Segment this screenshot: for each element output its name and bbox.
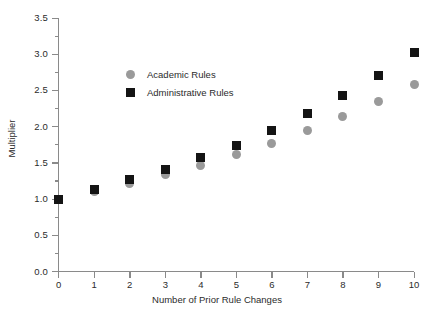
x-tick-label: 6 [260, 280, 284, 290]
data-point [196, 153, 205, 162]
x-tick-label: 0 [47, 280, 71, 290]
x-tick-label: 8 [331, 280, 355, 290]
legend-square-icon [126, 88, 135, 97]
data-point [303, 109, 312, 118]
data-point [410, 80, 419, 89]
data-point [410, 48, 419, 57]
data-point [303, 126, 312, 135]
y-tick-mark [52, 54, 59, 55]
y-tick-label: 0.0 [20, 267, 48, 277]
y-tick-mark [52, 90, 59, 91]
y-tick-mark [52, 126, 59, 127]
data-point [267, 126, 276, 135]
x-axis-title: Number of Prior Rule Changes [0, 294, 434, 305]
y-minor-tick-mark [55, 253, 59, 254]
x-tick-mark [271, 272, 272, 278]
legend-label: Academic Rules [147, 69, 216, 80]
x-tick-label: 2 [118, 280, 142, 290]
scatter-chart: 0.00.51.01.52.02.53.03.5 012345678910 Ac… [0, 0, 434, 318]
plot-area: 0.00.51.01.52.02.53.03.5 012345678910 Ac… [0, 0, 434, 318]
x-tick-mark [129, 272, 130, 278]
x-tick-mark [58, 272, 59, 278]
x-tick-label: 9 [366, 280, 390, 290]
x-tick-label: 1 [82, 280, 106, 290]
y-tick-label: 3.5 [20, 13, 48, 23]
y-axis-title: Multiplier [6, 99, 17, 179]
x-tick-mark [94, 272, 95, 278]
data-point [338, 91, 347, 100]
data-point [374, 71, 383, 80]
x-tick-mark [200, 272, 201, 278]
y-minor-tick-mark [55, 217, 59, 218]
data-point [374, 97, 383, 106]
y-tick-mark [52, 18, 59, 19]
y-tick-label: 2.0 [20, 122, 48, 132]
y-tick-mark [52, 235, 59, 236]
y-tick-label: 2.5 [20, 85, 48, 95]
x-tick-mark [165, 272, 166, 278]
x-tick-mark [342, 272, 343, 278]
x-tick-mark [307, 272, 308, 278]
data-point [90, 185, 99, 194]
y-tick-mark [52, 162, 59, 163]
x-tick-mark [236, 272, 237, 278]
data-point [338, 112, 347, 121]
y-tick-label: 1.0 [20, 194, 48, 204]
data-point [232, 150, 241, 159]
x-tick-label: 4 [189, 280, 213, 290]
y-minor-tick-mark [55, 36, 59, 37]
data-point [54, 195, 63, 204]
data-point [161, 165, 170, 174]
y-tick-label: 3.0 [20, 49, 48, 59]
y-tick-label: 1.5 [20, 158, 48, 168]
y-minor-tick-mark [55, 72, 59, 73]
y-tick-label: 0.5 [20, 230, 48, 240]
x-tick-label: 3 [153, 280, 177, 290]
x-tick-label: 5 [224, 280, 248, 290]
x-tick-mark [414, 272, 415, 278]
data-point [232, 141, 241, 150]
y-minor-tick-mark [55, 144, 59, 145]
y-minor-tick-mark [55, 180, 59, 181]
x-tick-label: 7 [295, 280, 319, 290]
legend-circle-icon [126, 70, 135, 79]
data-point [267, 139, 276, 148]
y-minor-tick-mark [55, 108, 59, 109]
legend-label: Administrative Rules [147, 87, 234, 98]
x-tick-label: 10 [402, 280, 426, 290]
data-point [125, 175, 134, 184]
x-tick-mark [378, 272, 379, 278]
